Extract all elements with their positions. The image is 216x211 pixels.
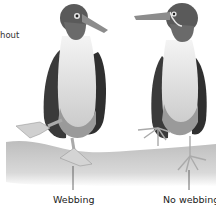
booby-illustration xyxy=(0,0,216,211)
label-webbing: Webbing xyxy=(53,194,94,205)
diagram-stage: hout Webbing No webbing xyxy=(0,0,216,211)
partial-caption-text: hout xyxy=(0,30,19,40)
ground-rock xyxy=(6,141,216,187)
label-no-webbing: No webbing xyxy=(163,194,216,205)
